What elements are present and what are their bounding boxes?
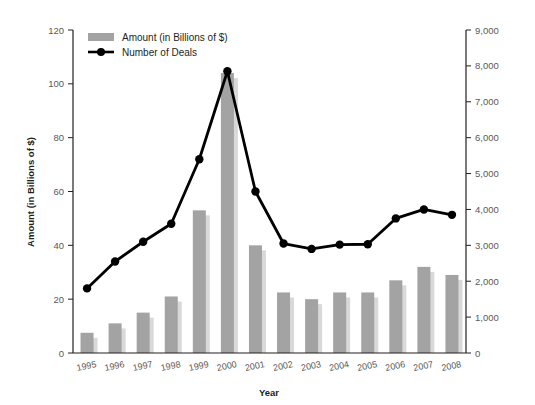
right-tick-label: 9,000 [475, 25, 499, 36]
bar [277, 292, 290, 353]
legend-marker-deals [97, 48, 105, 56]
right-tick-label: 3,000 [475, 240, 499, 251]
bar [417, 267, 430, 353]
right-tick-label: 7,000 [475, 96, 499, 107]
deals-line [87, 71, 452, 288]
left-axis-ticks: 020406080100120 [48, 25, 73, 359]
x-tick-label: 1998 [160, 359, 182, 373]
bar [305, 299, 318, 353]
deals-marker [195, 155, 203, 163]
x-tick-label: 2008 [441, 359, 463, 373]
bar-group [81, 73, 459, 353]
x-tick-label: 2000 [216, 359, 238, 373]
bar [137, 313, 150, 353]
deals-marker [279, 239, 287, 247]
legend-swatch-amount [88, 33, 114, 41]
deals-marker [448, 211, 456, 219]
left-tick-label: 120 [48, 25, 64, 36]
deals-marker [420, 205, 428, 213]
left-tick-label: 100 [48, 78, 64, 89]
bar [109, 323, 122, 353]
right-tick-label: 0 [475, 348, 480, 359]
right-tick-label: 6,000 [475, 132, 499, 143]
x-tick-label: 2001 [244, 359, 266, 373]
left-tick-label: 0 [59, 348, 64, 359]
bar [165, 296, 178, 353]
deals-marker [392, 214, 400, 222]
deals-marker [111, 257, 119, 265]
y-axis-title: Amount (in Billions of $) [25, 137, 36, 247]
deals-marker [223, 67, 231, 75]
bar [249, 245, 262, 353]
left-tick-label: 40 [53, 240, 64, 251]
chart-container: 020406080100120 01,0002,0003,0004,0005,0… [0, 0, 535, 405]
right-tick-label: 2,000 [475, 276, 499, 287]
bar [361, 292, 374, 353]
x-tick-label: 2007 [412, 359, 434, 373]
x-tick-label: 2006 [384, 359, 406, 373]
chart-legend: Amount (in Billions of $) Number of Deal… [88, 32, 228, 58]
line-series-group [83, 67, 456, 293]
left-tick-label: 60 [53, 186, 64, 197]
bar [81, 333, 94, 353]
deals-marker [335, 240, 343, 248]
deals-marker [364, 240, 372, 248]
x-tick-label: 1995 [76, 359, 98, 373]
bar [333, 292, 346, 353]
x-tick-label: 2003 [300, 359, 322, 373]
bar [193, 210, 206, 353]
deals-marker [167, 220, 175, 228]
deals-marker [307, 245, 315, 253]
combo-chart: 020406080100120 01,0002,0003,0004,0005,0… [0, 0, 535, 405]
x-tick-label: 1999 [188, 359, 210, 373]
legend-label-amount: Amount (in Billions of $) [122, 32, 228, 43]
bar [221, 73, 234, 353]
bar [389, 280, 402, 353]
legend-label-deals: Number of Deals [122, 47, 197, 58]
left-tick-label: 80 [53, 132, 64, 143]
x-axis-ticks: 1995199619971998199920002001200220032004… [76, 359, 463, 373]
x-tick-label: 1997 [132, 359, 154, 373]
x-tick-label: 1996 [104, 359, 126, 373]
right-tick-label: 4,000 [475, 204, 499, 215]
axis-frame [73, 30, 466, 353]
right-tick-label: 8,000 [475, 60, 499, 71]
x-axis-title: Year [259, 387, 279, 398]
x-tick-label: 2004 [328, 359, 350, 373]
deals-marker [83, 284, 91, 292]
right-tick-label: 1,000 [475, 312, 499, 323]
x-tick-label: 2002 [272, 359, 294, 373]
deals-marker [251, 187, 259, 195]
deals-marker [139, 238, 147, 246]
left-tick-label: 20 [53, 294, 64, 305]
right-axis-ticks: 01,0002,0003,0004,0005,0006,0007,0008,00… [466, 25, 499, 359]
right-tick-label: 5,000 [475, 168, 499, 179]
x-tick-label: 2005 [356, 359, 378, 373]
bar [445, 275, 458, 353]
